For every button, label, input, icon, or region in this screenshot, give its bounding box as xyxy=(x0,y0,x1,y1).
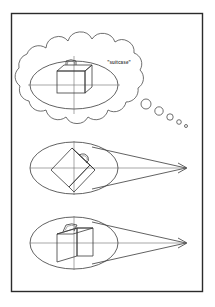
thought-tail-bubble-5 xyxy=(185,125,188,128)
figure-root: "suitcase" xyxy=(0,0,215,307)
thought-tail-bubble-1 xyxy=(141,99,151,109)
diagram-canvas: "suitcase" xyxy=(0,0,215,307)
suitcase-label: "suitcase" xyxy=(107,60,131,65)
thought-tail-bubble-2 xyxy=(155,107,163,115)
thought-tail-bubble-3 xyxy=(167,114,173,120)
thought-tail-bubble-4 xyxy=(177,120,182,125)
